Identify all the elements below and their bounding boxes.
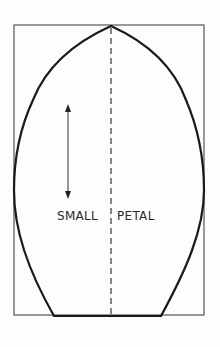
petal-diagram bbox=[0, 0, 220, 347]
petal-outline bbox=[14, 26, 204, 316]
label-petal: PETAL bbox=[117, 210, 155, 222]
bounding-box bbox=[14, 25, 204, 315]
double-arrow-icon bbox=[65, 104, 71, 199]
label-small: SMALL bbox=[57, 210, 98, 222]
